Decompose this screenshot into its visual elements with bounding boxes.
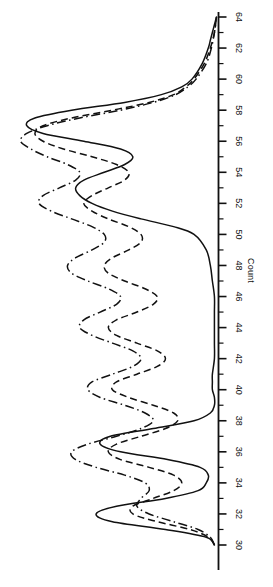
- axis-tick-label: 44: [234, 323, 244, 333]
- axis-tick-label: 64: [234, 12, 244, 22]
- axis-tick-label: 32: [234, 509, 244, 519]
- axis-tick-label: 42: [234, 354, 244, 364]
- axis-tick-label: 30: [234, 540, 244, 550]
- axis-tick-label: 40: [234, 385, 244, 395]
- axis-tick-label: 62: [234, 43, 244, 53]
- plot-curves: [21, 17, 217, 545]
- axis-tick-label: 36: [234, 447, 244, 457]
- axis-tick-label: 58: [234, 105, 244, 115]
- axis-tick-label: 60: [234, 74, 244, 84]
- axis-tick-label: 38: [234, 416, 244, 426]
- axis-tick-label: 50: [234, 229, 244, 239]
- axis-tick-label: 34: [234, 478, 244, 488]
- axis-tick-label: 54: [234, 167, 244, 177]
- series-line-solid: [26, 17, 216, 545]
- axis-tick-label: 52: [234, 198, 244, 208]
- density-plot: 303234363840424446485052545658606264: [0, 0, 273, 587]
- series-line-dashed: [35, 17, 217, 545]
- axis-title-count: Count: [243, 258, 259, 318]
- chart-container: 303234363840424446485052545658606264 Cou…: [0, 0, 273, 587]
- series-line-dashdot: [21, 17, 217, 545]
- axis-tick-label: 56: [234, 136, 244, 146]
- count-axis: 303234363840424446485052545658606264: [219, 12, 245, 570]
